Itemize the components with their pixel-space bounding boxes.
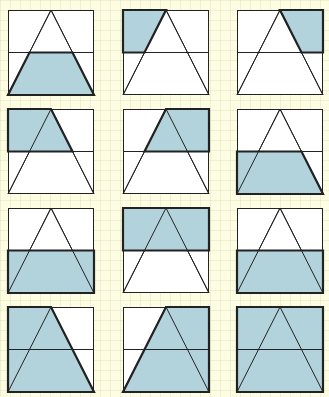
puzzle-grid: [0, 0, 329, 397]
figure-10: [8, 307, 94, 392]
figure-11: [123, 307, 209, 392]
figure-3: [237, 10, 323, 95]
figure-5: [123, 109, 209, 194]
figure-12: [237, 307, 323, 392]
figure-7: [8, 208, 94, 293]
figure-1: [8, 10, 94, 95]
shaded-region: [123, 208, 209, 251]
figure-6: [237, 109, 323, 194]
shaded-region: [8, 251, 94, 294]
figure-9: [237, 208, 323, 293]
shaded-region: [237, 251, 323, 294]
figure-2: [123, 10, 209, 95]
figure-4: [8, 109, 94, 194]
figure-8: [123, 208, 209, 293]
